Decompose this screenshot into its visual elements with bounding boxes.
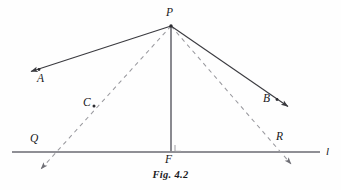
label-r: R (276, 131, 283, 143)
label-q: Q (30, 133, 38, 145)
point-dot-a (38, 68, 41, 71)
dashed-ray-pr (171, 26, 291, 164)
figure-container: P A B C F Q R l Fig. 4.2 (0, 0, 341, 190)
right-angle-mark (175, 145, 181, 151)
label-b: B (263, 93, 270, 105)
label-line-l: l (326, 146, 329, 157)
point-dot-c (93, 105, 96, 108)
solid-ray-pb (171, 26, 288, 107)
label-f: F (165, 154, 172, 166)
figure-caption: Fig. 4.2 (0, 169, 341, 180)
label-p: P (166, 7, 173, 19)
label-a: A (37, 73, 44, 85)
solid-ray-pa (31, 26, 171, 72)
point-dot-b (276, 98, 279, 101)
vertex-dot-p (169, 24, 172, 27)
label-c: C (83, 97, 91, 109)
